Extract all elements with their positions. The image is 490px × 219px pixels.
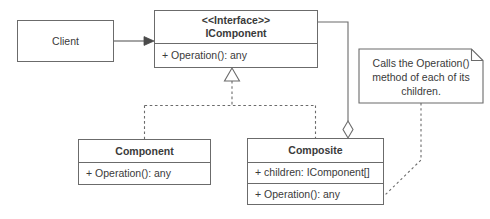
composite-operation-0: + Operation(): any <box>255 188 340 201</box>
icomponent-operations-compartment: + Operation(): any <box>155 43 317 67</box>
icomponent-stereotype: <<Interface>> <box>202 14 270 27</box>
client-name: Client <box>52 35 79 48</box>
composite-attribute-0: + children: IComponent[] <box>255 166 370 179</box>
component-operations-compartment: + Operation(): any <box>79 162 210 184</box>
hollow-diamond-head <box>343 121 353 138</box>
edge-realization-lines <box>145 81 316 139</box>
class-box-client[interactable]: Client <box>17 20 114 62</box>
composite-operations-compartment: + Operation(): any <box>248 183 383 204</box>
edge-note-anchor <box>384 103 421 196</box>
uml-class-diagram: IComponent association (solid, open arro… <box>0 0 490 219</box>
client-title-compartment: Client <box>18 21 113 61</box>
class-box-composite[interactable]: Composite + children: IComponent[] + Ope… <box>247 138 384 205</box>
icomponent-operation-0: + Operation(): any <box>162 49 247 62</box>
icomponent-title-compartment: <<Interface>> IComponent <box>155 11 317 43</box>
class-box-icomponent[interactable]: <<Interface>> IComponent + Operation(): … <box>154 10 318 68</box>
component-name: Component <box>115 145 173 158</box>
icomponent-name: IComponent <box>205 27 266 40</box>
open-arrow-head <box>144 37 154 46</box>
composite-name: Composite <box>288 144 342 157</box>
hollow-triangle-head <box>225 68 240 81</box>
note-line-1: method of each of its <box>372 70 469 84</box>
edge-aggregation <box>318 22 353 138</box>
edge-client-uses-icomponent <box>114 37 154 46</box>
class-box-component[interactable]: Component + Operation(): any <box>78 139 211 185</box>
component-title-compartment: Component <box>79 140 210 162</box>
component-operation-0: + Operation(): any <box>86 167 171 180</box>
note-line-2: children. <box>401 84 441 98</box>
note-callout[interactable]: Calls the Operation() method of each of … <box>359 49 483 103</box>
edge-realization-arrowhead <box>225 68 240 81</box>
note-text-block: Calls the Operation() method of each of … <box>359 49 483 103</box>
composite-title-compartment: Composite <box>248 139 383 162</box>
composite-attributes-compartment: + children: IComponent[] <box>248 162 383 184</box>
note-line-0: Calls the Operation() <box>373 56 470 70</box>
